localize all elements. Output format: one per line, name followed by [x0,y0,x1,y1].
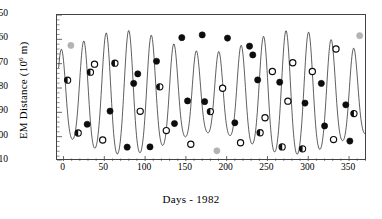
data-point-gray [357,33,363,39]
data-point-half-filled [75,130,81,136]
data-point-open [285,98,291,104]
data-point-half-filled [112,60,118,66]
data-point-half-filled [299,146,305,152]
data-point-open [330,136,336,142]
data-point-open [309,68,315,74]
y-tick-label: 390 [0,106,8,115]
chart-figure: EM Distance (106 m) 35036037038039040041… [0,0,382,219]
data-markers [65,32,363,154]
data-point-filled [147,144,153,150]
data-point-filled [318,80,324,86]
data-point-half-filled [207,109,213,115]
data-point-open [91,61,97,67]
data-point-gray [68,42,74,48]
data-point-filled [171,120,177,126]
data-point-open [333,46,339,52]
y-tick-label: 410 [0,155,8,164]
chart-canvas [57,15,367,161]
y-axis-title-main: EM Distance (10 [17,61,29,139]
y-tick-label: 400 [0,131,8,140]
data-point-filled [277,79,283,85]
data-point-filled [124,144,130,150]
data-point-filled [179,35,185,41]
data-point-filled [107,108,113,114]
data-point-open [220,85,226,91]
data-point-open [100,137,106,143]
x-tick-label: 0 [48,163,78,172]
x-tick-label: 350 [333,163,363,172]
data-point-half-filled [157,84,163,90]
data-point-filled [343,102,349,108]
data-point-open [188,141,194,147]
data-point-open [237,140,243,146]
data-point-half-filled [279,144,285,150]
data-point-gray [214,148,220,154]
data-point-filled [153,58,159,64]
data-point-filled [255,77,261,83]
data-point-open [290,60,296,66]
data-line [59,30,366,154]
data-point-open [163,127,169,133]
data-point-filled [199,32,205,38]
data-point-filled [131,80,137,86]
data-point-filled [232,120,238,126]
data-point-filled [246,43,252,49]
data-point-half-filled [257,130,263,136]
x-axis-title: Days - 1982 [0,193,382,205]
data-point-filled [321,123,327,129]
data-point-filled [202,99,208,105]
y-axis-title-unit: m) [17,42,29,58]
x-tick-label: 300 [292,163,322,172]
data-point-half-filled [351,110,357,116]
x-tick-label: 250 [251,163,281,172]
data-point-filled [135,71,141,77]
data-point-filled [302,100,308,106]
data-point-filled [184,98,190,104]
x-tick-label: 200 [211,163,241,172]
data-point-half-filled [87,69,93,75]
y-axis-title: EM Distance (106 m) [17,15,30,165]
y-axis-title-exponent: 6 [17,57,25,61]
y-tick-label: 380 [0,82,8,91]
data-point-filled [224,35,230,41]
data-point-filled [347,138,353,144]
y-tick-label: 370 [0,58,8,67]
data-point-open [262,115,268,121]
x-tick-label: 50 [88,163,118,172]
plot-area [56,14,366,160]
x-tick-label: 150 [170,163,200,172]
y-tick-label: 350 [0,9,8,18]
data-point-filled [250,52,256,58]
data-point-open [137,108,143,114]
x-tick-label: 100 [129,163,159,172]
data-point-half-filled [65,77,71,83]
data-point-open [269,68,275,74]
y-tick-label: 360 [0,33,8,42]
data-point-filled [84,121,90,127]
